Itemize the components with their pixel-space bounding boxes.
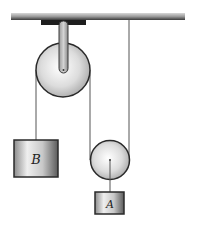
block-b-label: B xyxy=(30,152,41,167)
pulley-diagram: B A xyxy=(0,0,198,227)
block-a-label: A xyxy=(105,198,114,211)
pulley-support-rod xyxy=(59,21,68,73)
ceiling-beam xyxy=(11,13,185,20)
fixed-pulley-axle xyxy=(63,69,65,71)
